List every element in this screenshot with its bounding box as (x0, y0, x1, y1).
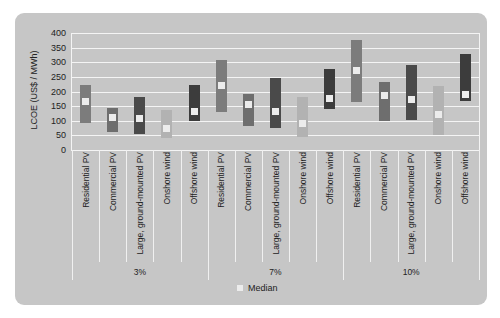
range-bar (243, 94, 254, 127)
category-separator (316, 150, 317, 262)
category-label: Offshore wind (326, 152, 335, 318)
range-bar (379, 82, 390, 122)
category-label: Residential PV (217, 152, 226, 318)
legend-median-marker (237, 285, 243, 291)
median-marker (326, 95, 333, 102)
category-separator (262, 150, 263, 262)
group-separator (479, 150, 480, 280)
category-separator (126, 150, 127, 262)
range-bar (324, 69, 335, 109)
category-separator (181, 150, 182, 262)
y-tick-label: 0 (36, 145, 66, 155)
group-label: 3% (134, 267, 146, 277)
category-label: Large, ground-mounted PV (136, 152, 145, 318)
category-label: Residential PV (353, 152, 362, 318)
y-tick-label: 350 (36, 43, 66, 53)
category-label: Offshore wind (190, 152, 199, 318)
category-separator (99, 150, 100, 262)
median-marker (136, 115, 143, 122)
median-marker (299, 120, 306, 127)
median-marker (82, 98, 89, 105)
category-label: Large, ground-mounted PV (272, 152, 281, 318)
y-tick-label: 200 (36, 87, 66, 97)
y-axis-label: LCOE (US$ / MWh) (29, 50, 39, 129)
category-separator (235, 150, 236, 262)
median-marker (462, 91, 469, 98)
gridline (72, 150, 479, 151)
y-tick-label: 250 (36, 72, 66, 82)
y-axis-line (71, 33, 72, 151)
median-marker (353, 67, 360, 74)
median-marker (163, 125, 170, 132)
range-bar (189, 85, 200, 121)
group-label: 10% (403, 267, 420, 277)
legend-median-label: Median (248, 283, 278, 293)
range-bar (270, 78, 281, 127)
group-separator (343, 150, 344, 280)
gridline (72, 33, 479, 34)
y-tick-label: 100 (36, 116, 66, 126)
median-marker (435, 111, 442, 118)
category-label: Large, ground-mounted PV (407, 152, 416, 318)
plot-right-border (479, 33, 480, 150)
y-tick-label: 150 (36, 101, 66, 111)
gridline (72, 62, 479, 63)
category-label: Commercial PV (380, 152, 389, 318)
median-marker (272, 108, 279, 115)
median-marker (408, 96, 415, 103)
gridline (72, 48, 479, 49)
category-label: Offshore wind (461, 152, 470, 318)
median-marker (191, 108, 198, 115)
category-separator (153, 150, 154, 262)
category-label: Residential PV (82, 152, 91, 318)
category-separator (452, 150, 453, 262)
y-tick-label: 50 (36, 130, 66, 140)
category-label: Commercial PV (244, 152, 253, 318)
median-marker (381, 92, 388, 99)
range-bar (406, 65, 417, 120)
category-separator (398, 150, 399, 262)
category-separator (370, 150, 371, 262)
category-label: Onshore wind (163, 152, 172, 318)
median-marker (218, 82, 225, 89)
median-marker (109, 114, 116, 121)
group-separator (72, 150, 73, 280)
y-tick-label: 300 (36, 57, 66, 67)
category-label: Onshore wind (434, 152, 443, 318)
group-label: 7% (269, 267, 281, 277)
group-separator (208, 150, 209, 280)
category-label: Commercial PV (109, 152, 118, 318)
y-tick-label: 400 (36, 28, 66, 38)
category-separator (425, 150, 426, 262)
median-marker (245, 101, 252, 108)
category-separator (289, 150, 290, 262)
range-bar (297, 97, 308, 137)
category-label: Onshore wind (299, 152, 308, 318)
gridline (72, 135, 479, 136)
